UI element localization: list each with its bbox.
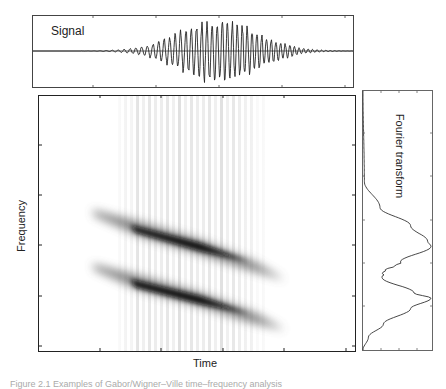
- x-axis-label: Time: [193, 357, 217, 369]
- spectrogram-image: [92, 96, 285, 351]
- signal-waveform: [33, 21, 353, 82]
- figure-caption: Figure 2.1 Examples of Gabor/Wigner–Vill…: [10, 379, 282, 389]
- y-axis-label: Frequency: [15, 200, 27, 252]
- fourier-title: Fourier transform: [394, 114, 406, 198]
